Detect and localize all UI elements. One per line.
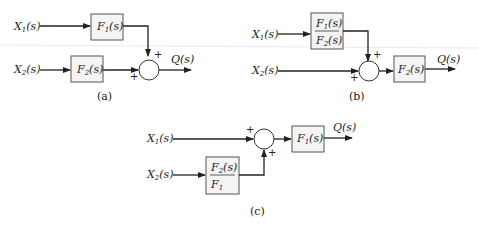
caption-b: (b) — [349, 90, 365, 103]
summing-junction — [139, 60, 159, 80]
input-x1-label: X1(s) — [13, 20, 41, 34]
plus-sign: + — [130, 71, 138, 82]
block-diagram-figure: X1(s) F1(s) X2(s) F2(s) + + Q(s) (a) X1(… — [0, 0, 479, 231]
plus-sign: + — [350, 72, 358, 83]
diagram-a: X1(s) F1(s) X2(s) F2(s) + + Q(s) (a) — [13, 14, 194, 103]
input-x2-label: X2(s) — [13, 63, 41, 77]
plus-sign: + — [246, 124, 254, 135]
summing-junction — [254, 129, 274, 149]
svg-text:F2(s): F2(s) — [210, 161, 237, 175]
output-label: Q(s) — [333, 121, 356, 134]
plus-sign: + — [373, 49, 381, 60]
svg-text:F1(s): F1(s) — [96, 20, 123, 34]
signal-line — [239, 150, 264, 175]
svg-text:F2(s): F2(s) — [315, 34, 342, 48]
svg-text:F2(s): F2(s) — [76, 63, 103, 77]
output-label: Q(s) — [171, 53, 194, 66]
svg-text:X1(s): X1(s) — [13, 20, 41, 34]
plus-sign: + — [154, 49, 162, 60]
svg-text:X2(s): X2(s) — [146, 168, 174, 182]
caption-a: (a) — [97, 90, 112, 103]
summing-junction — [359, 61, 379, 81]
diagram-c: X1(s) + + F1(s) Q(s) X2(s) F2(s) F1 (c) — [146, 121, 356, 218]
svg-text:X1(s): X1(s) — [146, 132, 174, 146]
svg-text:X1(s): X1(s) — [251, 28, 279, 42]
output-label: Q(s) — [437, 53, 460, 66]
diagram-b: X1(s) F1(s) F2(s) X2(s) + + F2(s) Q(s) (… — [251, 13, 460, 103]
svg-text:X2(s): X2(s) — [251, 64, 279, 78]
page-fold-line — [0, 45, 479, 48]
signal-line — [343, 31, 368, 61]
svg-text:F2(s): F2(s) — [397, 63, 424, 77]
svg-text:F1(s): F1(s) — [315, 17, 342, 31]
signal-line — [123, 26, 148, 56]
svg-text:X2(s): X2(s) — [13, 63, 41, 77]
caption-c: (c) — [250, 205, 265, 218]
plus-sign: + — [268, 147, 276, 158]
svg-text:F1(s): F1(s) — [296, 132, 323, 146]
